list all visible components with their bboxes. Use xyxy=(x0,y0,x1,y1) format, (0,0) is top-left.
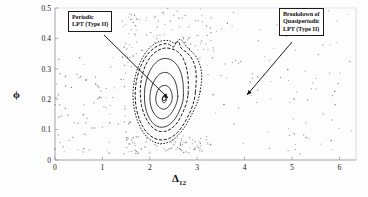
y-axis-label-text: ϕ xyxy=(13,88,20,100)
scatter-point xyxy=(173,14,174,15)
scatter-point xyxy=(206,136,207,137)
scatter-point xyxy=(134,150,136,152)
scatter-point xyxy=(56,83,57,84)
scatter-point xyxy=(86,117,88,119)
scatter-point xyxy=(135,25,137,27)
scatter-point xyxy=(123,79,124,80)
scatter-point xyxy=(180,149,182,151)
scatter-point xyxy=(150,32,151,33)
scatter-point xyxy=(188,152,190,154)
scatter-point xyxy=(125,24,126,25)
scatter-point xyxy=(71,87,73,89)
scatter-point xyxy=(135,145,136,146)
scatter-point xyxy=(131,14,132,15)
scatter-point xyxy=(126,137,127,138)
scatter-point xyxy=(120,79,122,81)
scatter-point xyxy=(330,44,331,45)
scatter-point xyxy=(112,97,113,98)
scatter-point xyxy=(99,97,101,99)
scatter-point xyxy=(124,153,125,154)
scatter-point xyxy=(167,149,168,150)
scatter-point xyxy=(162,12,164,14)
scatter-point xyxy=(199,150,200,151)
scatter-point xyxy=(322,113,324,115)
scatter-point xyxy=(91,127,93,129)
x-axis-label-subscript: 12 xyxy=(179,179,186,187)
scatter-point xyxy=(200,9,201,10)
scatter-point xyxy=(201,150,203,152)
scatter-point xyxy=(225,63,226,64)
x-tick-label: 5 xyxy=(290,163,294,172)
scatter-point xyxy=(137,152,138,153)
scatter-point xyxy=(64,151,65,152)
x-tick-label: 2 xyxy=(148,163,152,172)
scatter-point xyxy=(136,18,138,20)
scatter-point xyxy=(179,148,181,150)
scatter-point xyxy=(339,72,340,73)
scatter-point xyxy=(129,143,130,144)
x-axis-label: Δ12 xyxy=(172,172,186,187)
scatter-point xyxy=(200,145,201,146)
scatter-point xyxy=(198,147,199,148)
scatter-point xyxy=(89,149,90,150)
periodic-lpt-callout-line-1: Periodic xyxy=(72,14,108,21)
scatter-point xyxy=(83,114,85,116)
y-tick-label: 0.4 xyxy=(42,34,52,43)
scatter-point xyxy=(295,50,296,51)
scatter-point xyxy=(132,142,133,143)
scatter-point xyxy=(294,98,296,100)
scatter-point xyxy=(114,87,115,88)
scatter-point xyxy=(338,128,339,129)
scatter-point xyxy=(128,33,129,34)
scatter-point xyxy=(207,74,208,75)
scatter-point xyxy=(136,136,137,137)
scatter-point xyxy=(318,54,320,56)
scatter-point xyxy=(243,143,244,144)
scatter-point xyxy=(183,38,185,40)
scatter-point xyxy=(125,43,126,44)
scatter-point xyxy=(164,34,165,35)
scatter-point xyxy=(62,146,64,148)
scatter-point xyxy=(251,95,252,96)
scatter-point xyxy=(186,142,187,143)
scatter-point xyxy=(328,10,329,11)
scatter-point xyxy=(131,151,132,152)
scatter-point xyxy=(134,15,136,17)
scatter-point xyxy=(131,29,132,30)
annotation-arrow-line xyxy=(247,42,292,95)
scatter-point xyxy=(183,142,184,143)
scatter-point xyxy=(195,141,196,142)
scatter-point xyxy=(195,45,196,46)
scatter-point xyxy=(171,141,172,142)
scatter-point xyxy=(257,90,258,91)
scatter-point xyxy=(80,76,82,78)
scatter-point xyxy=(94,127,96,129)
scatter-point xyxy=(216,30,217,31)
scatter-point xyxy=(124,86,125,87)
scatter-point xyxy=(135,153,137,155)
x-tick-label: 4 xyxy=(243,163,247,172)
scatter-point xyxy=(308,138,309,139)
scatter-point xyxy=(200,138,201,139)
scatter-point xyxy=(59,73,60,74)
scatter-point xyxy=(156,38,158,40)
scatter-point xyxy=(210,40,211,41)
scatter-point xyxy=(336,42,337,43)
scatter-point xyxy=(212,94,214,96)
scatter-point xyxy=(128,16,129,17)
scatter-point xyxy=(232,62,233,63)
scatter-point xyxy=(72,137,74,139)
scatter-point xyxy=(103,106,104,107)
scatter-point xyxy=(112,57,113,58)
scatter-point xyxy=(59,104,61,106)
scatter-point xyxy=(280,77,281,78)
scatter-point xyxy=(316,88,317,89)
scatter-point xyxy=(259,29,260,30)
scatter-point xyxy=(144,146,146,148)
y-tick-label: 0 xyxy=(47,156,51,165)
scatter-point xyxy=(136,41,137,42)
scatter-point xyxy=(118,123,120,125)
scatter-point xyxy=(83,64,84,65)
scatter-point xyxy=(67,115,68,116)
scatter-point xyxy=(269,60,270,61)
